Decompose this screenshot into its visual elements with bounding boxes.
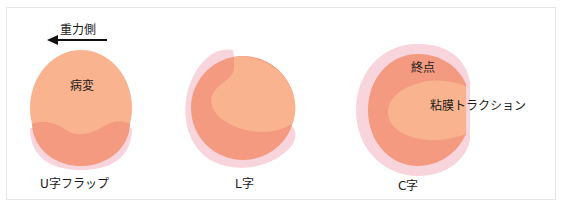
gravity-side-label: 重力側 xyxy=(60,23,96,37)
caption-u-flap: U字フラップ xyxy=(40,176,109,191)
panel-u-flap: 重力側 病変 U字フラップ xyxy=(30,23,132,191)
panel-c-shape: 終点 粘膜トラクション C字 xyxy=(356,44,526,193)
arrow-left-icon xyxy=(47,35,58,45)
panel-l-shape: L字 xyxy=(185,49,295,191)
endpoint-label: 終点 xyxy=(411,60,435,75)
caption-l-shape: L字 xyxy=(235,176,254,191)
lesion-label: 病変 xyxy=(70,78,94,93)
caption-c-shape: C字 xyxy=(398,178,418,193)
mucosal-traction-label: 粘膜トラクション xyxy=(430,98,526,113)
flap-diagram: 重力側 病変 U字フラップ L字 終点 粘膜トラクション C字 xyxy=(0,0,564,209)
